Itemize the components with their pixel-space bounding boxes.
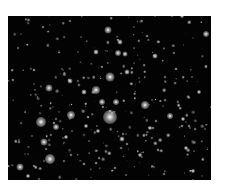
star [118,40,123,45]
star [186,80,188,82]
star [99,167,102,170]
star [161,60,163,62]
star [203,31,209,37]
star [160,149,164,153]
star [17,46,20,49]
star [180,16,184,18]
star [26,44,29,47]
star [48,143,51,146]
star [48,138,51,141]
star [94,47,95,48]
star [98,157,101,160]
star [49,134,52,137]
star [96,116,97,117]
star [128,148,130,150]
star [200,22,202,24]
star [20,33,22,35]
star [125,174,127,176]
star [32,69,35,72]
star [99,99,105,105]
star [94,50,99,55]
star [34,89,36,91]
star [151,166,153,168]
star [90,168,92,170]
star [154,142,157,145]
star [36,97,40,101]
star [90,63,92,65]
star [205,124,207,126]
star [95,162,98,165]
star [194,127,197,130]
star [100,66,103,69]
star [141,101,149,109]
star [59,120,62,123]
star [31,135,33,137]
star [92,86,100,94]
star [183,45,185,47]
star [54,76,58,80]
star [192,37,194,39]
star [46,65,47,66]
star [58,50,60,52]
star [105,144,108,147]
star [153,54,158,59]
star [137,55,139,57]
star [96,129,100,133]
star [45,154,55,164]
star [29,93,31,95]
star [135,84,137,86]
star [70,153,73,156]
star [52,106,54,108]
star [152,126,155,129]
star [145,134,147,136]
star [185,113,188,116]
star [171,16,174,18]
star [162,88,166,92]
star [33,83,35,85]
star [62,159,65,162]
star [134,91,136,93]
star [24,111,26,113]
star [162,105,164,107]
star [113,99,119,105]
star [19,121,22,124]
star [56,164,57,165]
star [85,106,86,107]
star [32,165,35,168]
star [186,153,190,157]
star [184,135,186,137]
star [133,62,135,64]
star [106,73,115,82]
star [167,113,173,119]
star [36,117,46,127]
star [76,156,77,157]
star [136,134,139,137]
star-cluster-image [8,16,211,180]
star [103,143,104,144]
star [120,137,125,142]
star [81,109,85,113]
star [137,39,140,42]
star [157,149,160,152]
star [154,163,155,164]
star [142,152,144,154]
star [88,153,90,155]
star [125,70,130,75]
star [143,117,145,119]
star [109,127,113,131]
star [115,50,121,56]
star [81,16,83,17]
star [91,113,94,116]
star [133,166,134,167]
star [167,133,171,137]
star [81,63,82,64]
star [27,18,30,21]
star [17,141,20,144]
star [79,160,81,162]
star [133,26,135,28]
star [138,153,142,157]
star [171,87,172,88]
star [190,69,192,71]
star [158,138,162,142]
star [60,73,62,75]
